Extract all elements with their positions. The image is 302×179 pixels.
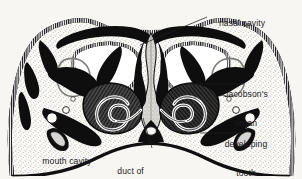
label-jacobsons-organ-line1: Jacobson's xyxy=(211,90,281,100)
label-duct-of-jacobsons-organ-line1: duct of xyxy=(78,167,183,177)
left-vessel-section-b xyxy=(63,107,70,114)
label-nasal-cavity-text: nasal cavity xyxy=(219,18,265,28)
label-duct-of-jacobsons-organ: duct of Jacobson's organ xyxy=(78,148,183,179)
anatomical-figure: nasal cavity Jacobson's organ developing… xyxy=(0,0,302,179)
label-developing-tooth-line2: tooth xyxy=(211,169,281,179)
label-developing-tooth-line1: developing xyxy=(211,140,281,150)
left-vessel-section-a xyxy=(47,113,57,123)
label-developing-tooth: developing tooth xyxy=(211,121,281,179)
left-small-duct xyxy=(71,97,76,102)
left-jacobsons-organ xyxy=(83,83,142,133)
label-nasal-cavity: nasal cavity xyxy=(209,9,265,38)
